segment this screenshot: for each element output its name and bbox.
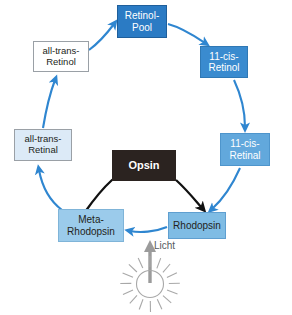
node-opsin-label: Opsin [128, 159, 159, 171]
arrow-pool-to-11cis-retinol [168, 24, 205, 43]
arrow-rhodopsin-to-meta [130, 227, 167, 232]
node-all-trans-retinol-label: all-trans- Retinol [43, 46, 80, 67]
light-label: Licht [154, 240, 175, 251]
connector-opsin-to-meta [85, 180, 112, 212]
node-retinol-pool[interactable]: Retinol- Pool [117, 5, 167, 38]
node-opsin[interactable]: Opsin [112, 150, 176, 181]
visual-cycle-diagram: Retinol- Pool all-trans- Retinol 11-cis-… [0, 0, 292, 315]
node-meta-rhodopsin[interactable]: Meta- Rhodopsin [58, 209, 124, 242]
node-rhodopsin[interactable]: Rhodopsin [168, 212, 226, 239]
arrow-all-trans-retinal-to-retinol [43, 80, 55, 128]
node-11-cis-retinal[interactable]: 11-cis- Retinal [220, 133, 270, 166]
node-rhodopsin-label: Rhodopsin [173, 220, 221, 231]
arrow-11cis-retinal-to-rhodopsin [212, 168, 240, 209]
node-all-trans-retinal[interactable]: all-trans- Retinal [14, 129, 72, 161]
node-11-cis-retinal-label: 11-cis- Retinal [229, 138, 260, 160]
node-retinol-pool-label: Retinol- Pool [125, 10, 159, 32]
node-meta-rhodopsin-label: Meta- Rhodopsin [67, 214, 115, 236]
arrow-retinol-to-pool [89, 24, 114, 50]
node-all-trans-retinol[interactable]: all-trans- Retinol [33, 41, 89, 72]
light-source-group: Licht [108, 238, 204, 315]
arrow-11cis-retinol-to-retinal [234, 80, 245, 127]
node-all-trans-retinal-label: all-trans- Retinal [25, 134, 62, 155]
arrow-meta-to-all-trans-retinal [39, 170, 62, 210]
arrow-opsin-to-rhodopsin [176, 180, 202, 208]
node-11-cis-retinol[interactable]: 11-cis- Retinol [200, 46, 248, 78]
node-11-cis-retinol-label: 11-cis- Retinol [208, 51, 239, 73]
